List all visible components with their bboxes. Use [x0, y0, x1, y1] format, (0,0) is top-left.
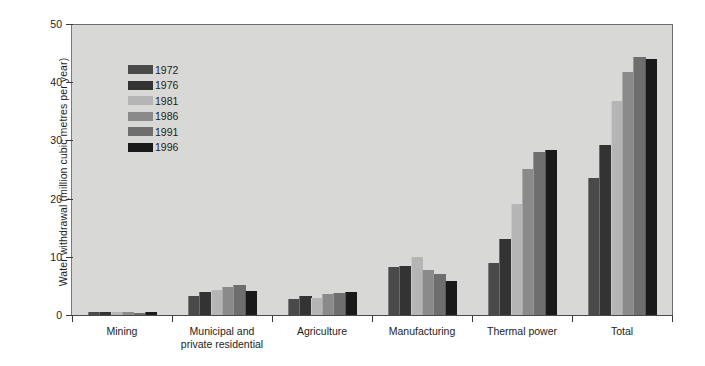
legend-swatch: [128, 96, 153, 105]
x-axis-tick: [72, 316, 73, 322]
x-axis-tick: [672, 316, 673, 322]
x-axis-tick: [372, 316, 373, 322]
y-axis-tick: [66, 199, 73, 200]
bar-group: [288, 24, 356, 315]
x-axis-category-label: Total: [572, 325, 672, 338]
legend-item: 1996: [128, 140, 178, 156]
y-axis-title: Water withdrawal (million cubic metres p…: [57, 27, 69, 317]
x-axis-category-label-line: Thermal power: [472, 325, 572, 338]
legend: 197219761981198619911996: [128, 62, 178, 155]
bar: [545, 150, 557, 315]
legend-swatch: [128, 65, 153, 74]
legend-label: 1972: [155, 65, 178, 76]
legend-item: 1981: [128, 93, 178, 109]
x-axis-tick: [572, 316, 573, 322]
legend-label: 1981: [155, 96, 178, 107]
x-axis-category-label-line: Agriculture: [272, 325, 372, 338]
y-axis-tick: [66, 257, 73, 258]
x-axis-category-label-line: Total: [572, 325, 672, 338]
y-axis-tick: [66, 82, 73, 83]
x-axis-category-label: Mining: [72, 325, 172, 338]
y-axis-tick-label: 40: [22, 77, 62, 88]
x-axis-tick: [172, 316, 173, 322]
legend-swatch: [128, 143, 153, 152]
bar-chart-figure: Water withdrawal (million cubic metres p…: [0, 0, 705, 366]
legend-swatch: [128, 81, 153, 90]
legend-label: 1991: [155, 127, 178, 138]
legend-label: 1986: [155, 111, 178, 122]
bar-group: [188, 24, 256, 315]
legend-swatch: [128, 112, 153, 121]
x-axis-category-label: Thermal power: [472, 325, 572, 338]
x-axis-tick: [272, 316, 273, 322]
y-axis-tick: [66, 24, 73, 25]
x-axis-tick: [472, 316, 473, 322]
x-axis-category-label: Manufacturing: [372, 325, 472, 338]
y-axis-tick-label: 0: [22, 310, 62, 321]
y-axis-tick-label: 50: [22, 19, 62, 30]
bar: [645, 59, 657, 315]
y-axis-tick-label: 10: [22, 252, 62, 263]
legend-item: 1986: [128, 109, 178, 125]
legend-swatch: [128, 127, 153, 136]
bar: [345, 292, 357, 315]
x-axis-category-label: Agriculture: [272, 325, 372, 338]
bar-group: [388, 24, 456, 315]
legend-item: 1972: [128, 62, 178, 78]
x-axis-category-label-line: Manufacturing: [372, 325, 472, 338]
y-axis-tick-label: 20: [22, 194, 62, 205]
x-axis-category-label-line: private residential: [172, 338, 272, 351]
legend-item: 1991: [128, 124, 178, 140]
bar-group: [588, 24, 656, 315]
x-axis-category-label-line: Mining: [72, 325, 172, 338]
x-axis-category-label: Municipal andprivate residential: [172, 325, 272, 351]
legend-label: 1996: [155, 142, 178, 153]
legend-label: 1976: [155, 80, 178, 91]
x-axis-category-label-line: Municipal and: [172, 325, 272, 338]
bar: [145, 312, 157, 315]
y-axis-tick: [66, 140, 73, 141]
y-axis-line: [71, 24, 72, 316]
bar: [445, 281, 457, 315]
bar-group: [488, 24, 556, 315]
bar: [245, 291, 257, 315]
legend-item: 1976: [128, 78, 178, 94]
y-axis-tick-label: 30: [22, 135, 62, 146]
